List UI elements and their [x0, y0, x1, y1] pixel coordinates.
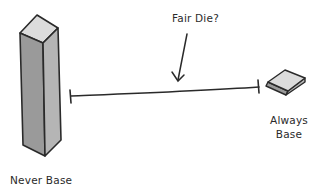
right-end-tick — [258, 80, 259, 93]
fair-die-annotation: Fair Die? — [172, 12, 219, 24]
tall-block-side-face — [43, 28, 61, 156]
never-base-label: Never Base — [10, 174, 72, 186]
tall-block — [20, 15, 61, 156]
tall-block-front-face — [20, 33, 45, 156]
left-end-tick — [70, 90, 71, 103]
always-base-label: Always Base — [270, 113, 308, 141]
flat-block — [266, 70, 305, 95]
always-base-label-line1: Always — [270, 113, 308, 127]
arrow-icon — [172, 34, 187, 81]
spectrum-line — [70, 80, 259, 103]
diagram-canvas — [0, 0, 322, 193]
always-base-label-line2: Base — [270, 127, 308, 141]
